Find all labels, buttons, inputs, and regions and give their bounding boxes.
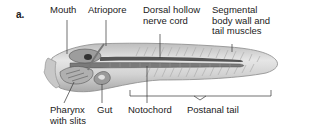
bracket-tick xyxy=(194,96,206,100)
label-segmental-muscles: Segmental body wall and tail muscles xyxy=(212,5,270,37)
label-notochord: Notochord xyxy=(128,105,172,116)
label-mouth: Mouth xyxy=(50,5,76,16)
postanal-bracket xyxy=(130,90,271,96)
label-atriopore: Atriopore xyxy=(88,5,127,16)
label-dorsal-nerve-cord: Dorsal hollow nerve cord xyxy=(143,5,200,26)
body xyxy=(44,43,278,92)
label-gut: Gut xyxy=(97,105,112,116)
label-pharynx: Pharynx with slits xyxy=(50,105,86,126)
label-postanal-tail: Postanal tail xyxy=(187,105,239,116)
